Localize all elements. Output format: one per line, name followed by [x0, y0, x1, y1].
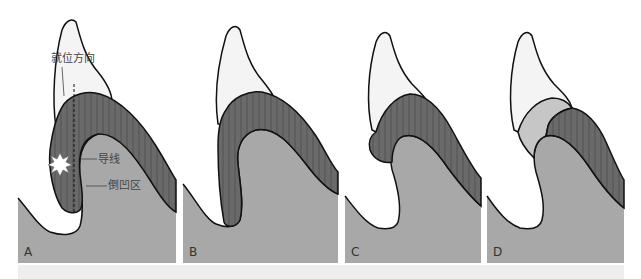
panel-label-d: D: [493, 245, 502, 259]
panel-a: 就位方向 导线 倒凹区 A: [18, 0, 176, 263]
panel-label-c: C: [351, 245, 359, 259]
panel-label-b: B: [189, 245, 197, 259]
bottom-strip: [18, 265, 624, 279]
panel-b: B: [183, 0, 338, 263]
undercut-burst-icon: [48, 153, 72, 176]
path-direction-label: 就位方向: [51, 51, 95, 65]
guide-line-label: 导线: [98, 152, 120, 166]
panel-label-a: A: [24, 245, 33, 259]
panel-d: D: [487, 0, 624, 263]
panel-c: C: [345, 0, 481, 263]
undercut-area-label: 倒凹区: [108, 179, 141, 192]
figure-canvas: 就位方向 导线 倒凹区 A B C D: [0, 0, 641, 279]
